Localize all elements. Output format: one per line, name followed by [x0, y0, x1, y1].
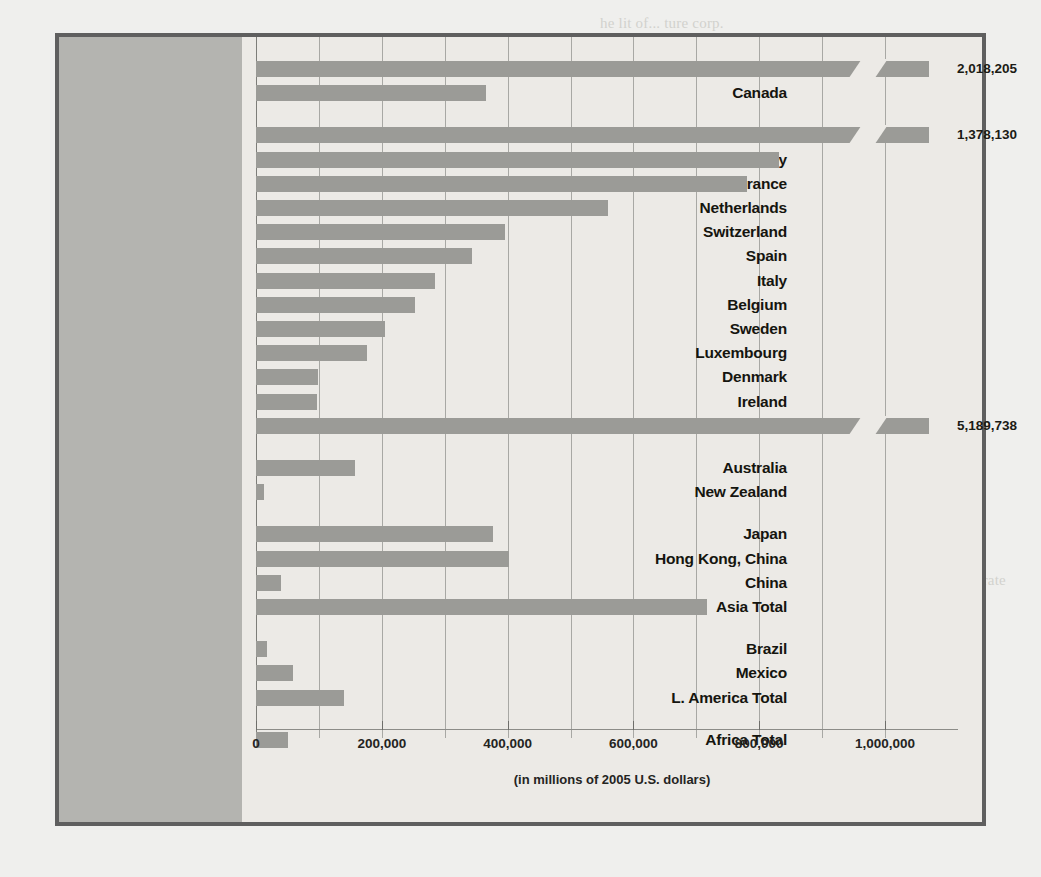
tick-1000000: [885, 721, 886, 730]
plot-area: United States2,018,205CanadaUnited Kingd…: [242, 37, 982, 822]
bar: [256, 176, 747, 192]
bar-row: Spain: [242, 246, 982, 266]
bar: [256, 394, 317, 410]
bar-row: Luxembourg: [242, 343, 982, 363]
category-label-panel: [59, 37, 242, 822]
row-label: Luxembourg: [537, 343, 787, 363]
row-label: Ireland: [537, 392, 787, 412]
tick-label-400000: 400,000: [483, 736, 532, 751]
bar: [256, 460, 355, 476]
row-label: Hong Kong, China: [537, 549, 787, 569]
tick-0: [256, 721, 257, 730]
bar: [256, 273, 435, 289]
row-label: Denmark: [537, 367, 787, 387]
bar-row: Sweden: [242, 319, 982, 339]
tick-label-600000: 600,000: [609, 736, 658, 751]
bar-row: Canada: [242, 83, 982, 103]
bar: [256, 484, 264, 500]
bar: [256, 224, 505, 240]
bar: [256, 248, 472, 264]
bar: [256, 526, 493, 542]
bar: [256, 297, 415, 313]
bar-row: United States2,018,205: [242, 59, 982, 79]
bar: [256, 418, 929, 434]
bar-row: Mexico: [242, 663, 982, 683]
row-label: Italy: [537, 271, 787, 291]
bar-row: Hong Kong, China: [242, 549, 982, 569]
bar-row: Germany: [242, 150, 982, 170]
chart-figure: United States2,018,205CanadaUnited Kingd…: [55, 33, 986, 826]
bar: [256, 641, 267, 657]
tick-label-800000: 800,000: [735, 736, 784, 751]
tick-600000: [633, 721, 634, 730]
bar: [256, 321, 385, 337]
bar: [256, 345, 367, 361]
bar: [256, 85, 486, 101]
bar: [256, 690, 344, 706]
bar-row: Denmark: [242, 367, 982, 387]
bar-row: France: [242, 174, 982, 194]
bar: [256, 551, 509, 567]
bar-row: Ireland: [242, 392, 982, 412]
tick-800000: [759, 721, 760, 730]
bar-row: New Zealand: [242, 482, 982, 502]
bar-row: Brazil: [242, 639, 982, 659]
bar-row: EU Total5,189,738: [242, 416, 982, 436]
row-label: Belgium: [537, 295, 787, 315]
tick-label-200000: 200,000: [357, 736, 406, 751]
bar-row: Australia: [242, 458, 982, 478]
x-axis-caption: (in millions of 2005 U.S. dollars): [242, 772, 982, 787]
bar-row: Belgium: [242, 295, 982, 315]
row-label: New Zealand: [537, 482, 787, 502]
row-label: Brazil: [537, 639, 787, 659]
bar: [256, 369, 318, 385]
tick-label-0: 0: [252, 736, 260, 751]
bar: [256, 665, 293, 681]
bar: [256, 152, 779, 168]
tick-label-1000000: 1,000,000: [855, 736, 915, 751]
bar-value-label: 2,018,205: [957, 59, 1017, 79]
x-axis-line: [256, 729, 958, 730]
bar-row: Switzerland: [242, 222, 982, 242]
tick-200000: [382, 721, 383, 730]
row-label: Mexico: [537, 663, 787, 683]
bar: [256, 200, 608, 216]
bar-row: Asia Total: [242, 597, 982, 617]
bar: [256, 127, 929, 143]
bar-row: United Kingdom1,378,130: [242, 125, 982, 145]
bar: [256, 61, 929, 77]
bar: [256, 599, 707, 615]
bar: [256, 575, 281, 591]
bar: [256, 732, 288, 748]
row-label: Australia: [537, 458, 787, 478]
bar-row: China: [242, 573, 982, 593]
row-label: Canada: [537, 83, 787, 103]
row-label: L. America Total: [537, 688, 787, 708]
tick-400000: [508, 721, 509, 730]
row-label: China: [537, 573, 787, 593]
bar-row: Japan: [242, 524, 982, 544]
row-label: Sweden: [537, 319, 787, 339]
bar-row: Netherlands: [242, 198, 982, 218]
row-label: Switzerland: [537, 222, 787, 242]
bar-value-label: 5,189,738: [957, 416, 1017, 436]
row-label: Spain: [537, 246, 787, 266]
bar-row: L. America Total: [242, 688, 982, 708]
row-label: Japan: [537, 524, 787, 544]
bar-value-label: 1,378,130: [957, 125, 1017, 145]
bar-row: Italy: [242, 271, 982, 291]
